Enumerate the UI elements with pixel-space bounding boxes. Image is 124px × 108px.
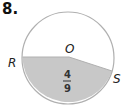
fraction-denominator: 9 xyxy=(64,83,71,94)
fraction-numerator: 4 xyxy=(64,69,71,80)
center-label-o: O xyxy=(65,42,74,56)
point-label-r: R xyxy=(8,56,16,70)
point-label-s: S xyxy=(113,72,121,86)
circle-diagram: O R S 4 9 xyxy=(0,0,124,108)
